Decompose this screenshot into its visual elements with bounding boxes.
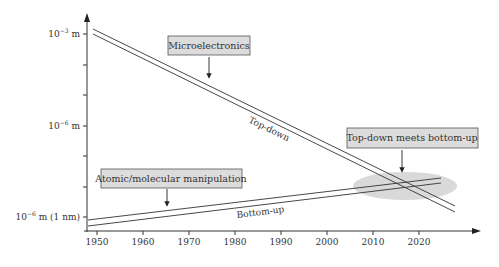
meets-callout: Top-down meets bottom-up bbox=[346, 128, 478, 170]
x-axis-arrow-icon bbox=[472, 228, 481, 234]
x-tick-label: 1960 bbox=[132, 237, 155, 247]
y-axis-arrow-icon bbox=[84, 13, 90, 22]
microelectronics-label: Microelectronics bbox=[168, 40, 250, 51]
x-tick-label: 2010 bbox=[362, 237, 385, 247]
top-down-label: Top-down bbox=[247, 115, 291, 143]
intersection-highlight bbox=[353, 172, 457, 200]
nanotech-diagram: 10−3 m 10−6 m 10−6 m (1 nm) 1950 1960 19… bbox=[0, 0, 499, 267]
x-tick-label: 1980 bbox=[224, 237, 247, 247]
y-label-top: 10−3 m bbox=[48, 27, 80, 39]
x-tick-label: 1990 bbox=[270, 237, 293, 247]
x-axis bbox=[84, 228, 481, 235]
y-axis bbox=[83, 13, 90, 232]
atomic-label: Atomic/molecular manipulation bbox=[94, 173, 246, 184]
atomic-callout: Atomic/molecular manipulation bbox=[94, 169, 246, 204]
x-tick-label: 2000 bbox=[316, 237, 339, 247]
x-tick-label: 1950 bbox=[86, 237, 109, 247]
microelectronics-callout: Microelectronics bbox=[168, 36, 250, 76]
x-tick-label: 2020 bbox=[408, 237, 431, 247]
meets-label: Top-down meets bottom-up bbox=[346, 132, 477, 143]
y-label-bottom: 10−6 m (1 nm) bbox=[15, 210, 80, 222]
y-label-middle: 10−6 m bbox=[48, 119, 80, 131]
bottom-up-label: Bottom-up bbox=[236, 204, 285, 220]
x-tick-label: 1970 bbox=[178, 237, 201, 247]
